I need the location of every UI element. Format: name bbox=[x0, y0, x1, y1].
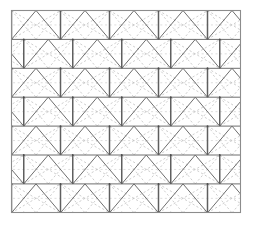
lattice-vertex-dot bbox=[219, 38, 221, 40]
lattice-vertex-dot bbox=[23, 154, 25, 156]
lattice-vertex-dot bbox=[109, 125, 111, 127]
lattice-vertex-dot bbox=[219, 154, 221, 156]
lattice-vertex-dot bbox=[60, 183, 62, 185]
lattice-vertex-dot bbox=[158, 125, 160, 127]
lattice-vertex-dot bbox=[170, 38, 172, 40]
lattice-vertex-dot bbox=[207, 67, 209, 69]
lattice-vertex-dot bbox=[72, 38, 74, 40]
lattice-vertex-dot bbox=[158, 183, 160, 185]
lattice-vertex-dot bbox=[23, 38, 25, 40]
lattice-vertex-dot bbox=[170, 154, 172, 156]
lattice-vertex-dot bbox=[207, 183, 209, 185]
lattice-vertex-dot bbox=[60, 125, 62, 127]
lattice-vertex-dot bbox=[207, 125, 209, 127]
lattice-vertex-dot bbox=[158, 67, 160, 69]
lattice-pattern-svg bbox=[0, 0, 253, 225]
lattice-vertex-dot bbox=[121, 38, 123, 40]
lattice-vertex-dot bbox=[23, 96, 25, 98]
lattice-vertex-dot bbox=[121, 154, 123, 156]
lattice-vertex-dot bbox=[109, 67, 111, 69]
lattice-vertex-dot bbox=[219, 96, 221, 98]
figure-root bbox=[0, 0, 253, 225]
lattice-vertex-dot bbox=[72, 96, 74, 98]
lattice-vertex-dot bbox=[60, 67, 62, 69]
lattice-vertex-dot bbox=[121, 96, 123, 98]
lattice-vertex-dot bbox=[72, 154, 74, 156]
lattice-vertex-dot bbox=[109, 183, 111, 185]
lattice-vertex-dot bbox=[170, 96, 172, 98]
